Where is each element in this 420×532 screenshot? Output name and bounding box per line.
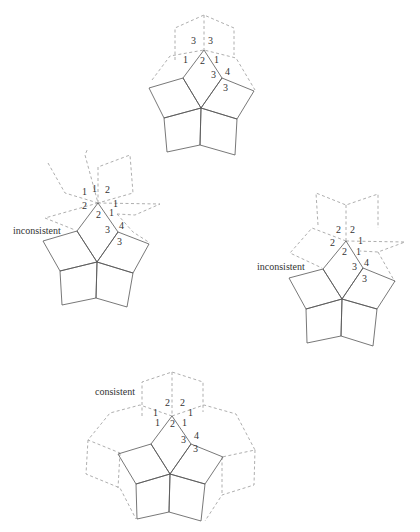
edge-label: 1 bbox=[214, 54, 219, 65]
penrose-tiling-diagram: 331213431122121343inconsistent222121343i… bbox=[0, 0, 420, 532]
edge-label: 1 bbox=[188, 407, 193, 418]
edge-label: 3 bbox=[352, 261, 357, 272]
labels-layer: 331213431122121343inconsistent222121343i… bbox=[13, 35, 369, 454]
edge-label: 4 bbox=[194, 430, 199, 441]
edge-label: 3 bbox=[105, 224, 110, 235]
edge-label: 3 bbox=[193, 443, 198, 454]
edge-label: 3 bbox=[211, 69, 216, 80]
edge-label: 2 bbox=[180, 397, 185, 408]
figure-caption: inconsistent bbox=[257, 261, 305, 272]
edge-label: 4 bbox=[364, 257, 369, 268]
figure-top bbox=[149, 15, 255, 155]
edge-label: 4 bbox=[225, 66, 230, 77]
edge-label: 1 bbox=[183, 54, 188, 65]
edge-label: 1 bbox=[109, 207, 114, 218]
edge-label: 1 bbox=[82, 186, 87, 197]
edge-label: 2 bbox=[82, 200, 87, 211]
edge-label: 2 bbox=[170, 418, 175, 429]
edge-label: 3 bbox=[117, 236, 122, 247]
figure-caption: consistent bbox=[95, 386, 135, 397]
edge-label: 2 bbox=[165, 397, 170, 408]
edge-label: 3 bbox=[223, 82, 228, 93]
edge-label: 1 bbox=[92, 183, 97, 194]
edge-label: 1 bbox=[182, 417, 187, 428]
edge-label: 1 bbox=[356, 246, 361, 257]
edge-label: 2 bbox=[342, 246, 347, 257]
edge-label: 2 bbox=[96, 209, 101, 220]
figure-right bbox=[289, 193, 405, 346]
edge-label: 3 bbox=[362, 273, 367, 284]
edge-label: 2 bbox=[330, 237, 335, 248]
edge-label: 2 bbox=[336, 224, 341, 235]
edge-label: 2 bbox=[105, 184, 110, 195]
edge-label: 3 bbox=[191, 35, 196, 46]
edge-label: 2 bbox=[200, 55, 205, 66]
edge-label: 3 bbox=[208, 35, 213, 46]
edge-label: 4 bbox=[119, 220, 124, 231]
edge-label: 1 bbox=[358, 235, 363, 246]
edge-label: 1 bbox=[155, 417, 160, 428]
figure-caption: inconsistent bbox=[13, 225, 61, 236]
edge-label: 2 bbox=[350, 224, 355, 235]
edge-label: 3 bbox=[181, 434, 186, 445]
